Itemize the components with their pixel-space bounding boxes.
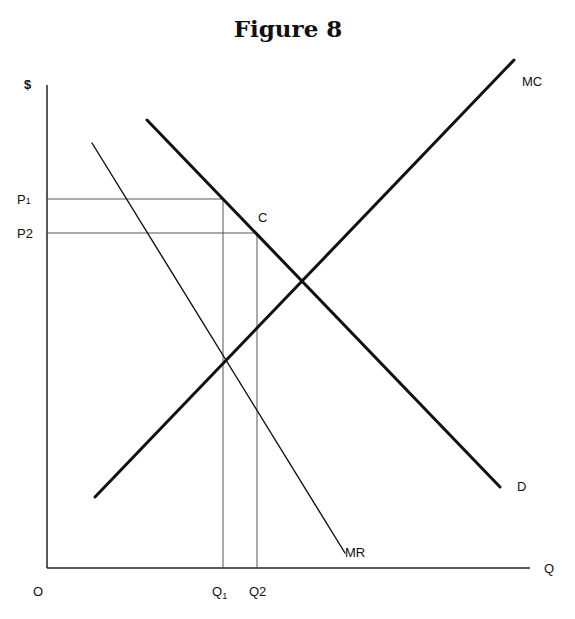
- mc-curve: [95, 60, 514, 497]
- mr-label: MR: [345, 545, 365, 560]
- p2-label: P2: [17, 226, 33, 241]
- chart-title: Figure 8: [234, 15, 343, 42]
- point-c-label: C: [258, 210, 267, 225]
- q1-label: Q1: [212, 584, 227, 601]
- q2-label: Q2: [249, 584, 266, 599]
- mr-curve: [92, 143, 345, 553]
- demand-curve: [147, 120, 500, 487]
- economics-chart: Figure 8 $ Q O P1 P2 Q1 Q2 C MC D MR: [0, 0, 575, 619]
- p1-label: P1: [17, 192, 31, 207]
- origin-label: O: [33, 584, 43, 599]
- dollar-axis-label: $: [24, 77, 32, 92]
- demand-label: D: [517, 479, 526, 494]
- q-axis-label: Q: [544, 561, 554, 576]
- mc-label: MC: [522, 74, 542, 89]
